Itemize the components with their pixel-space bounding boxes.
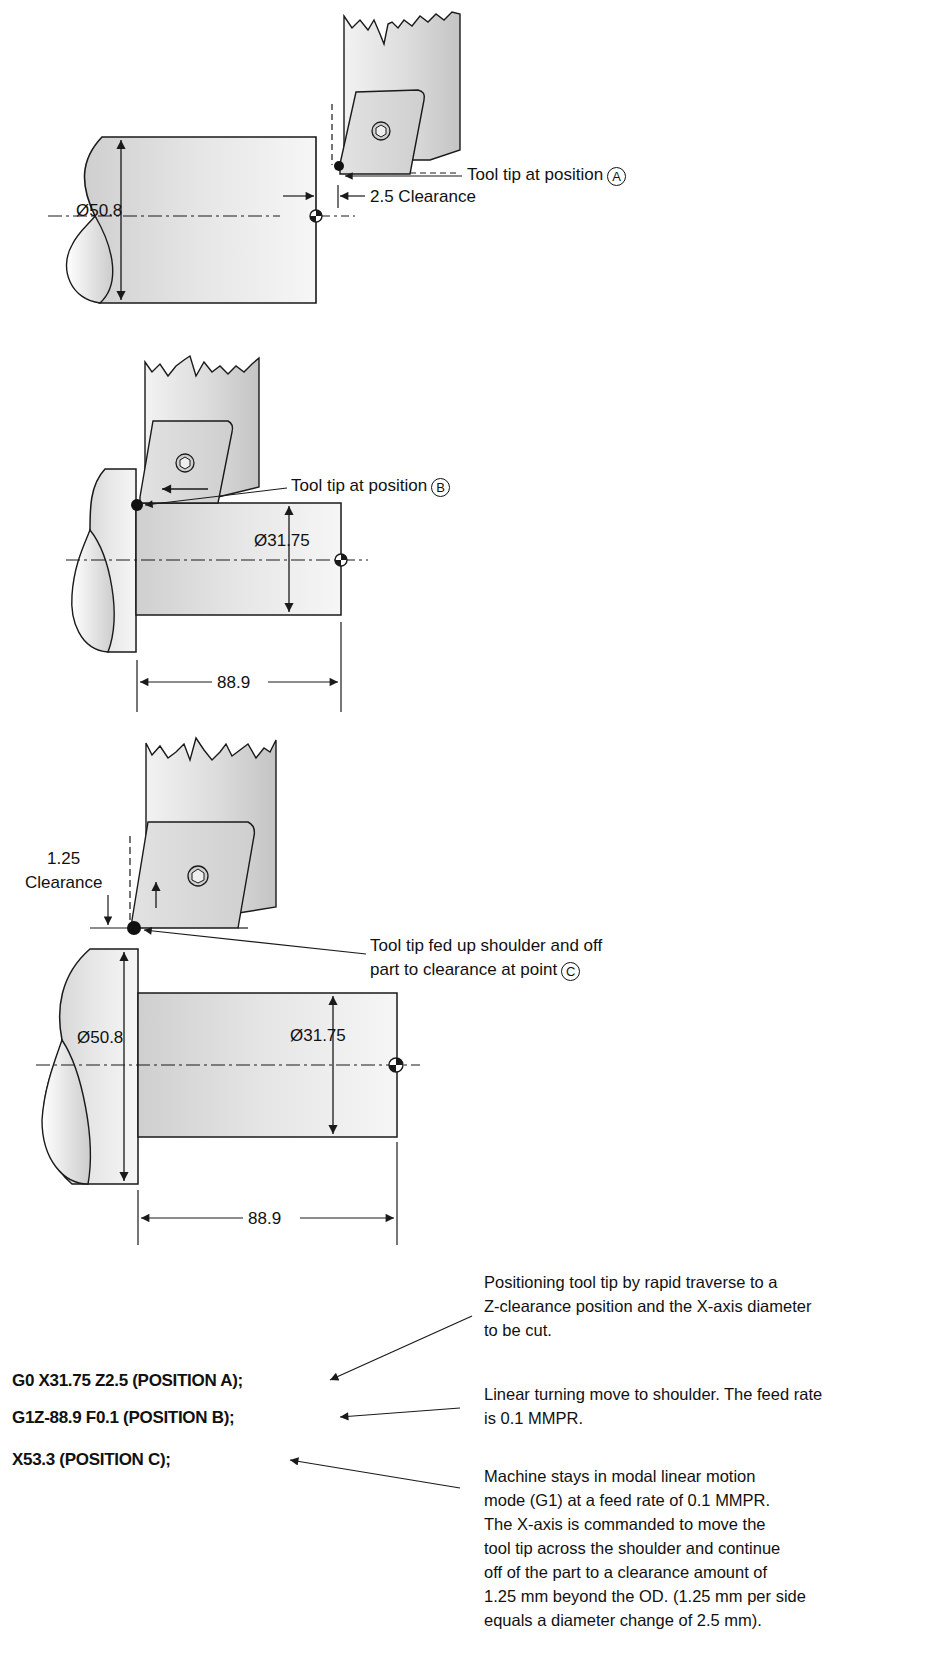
small-diameter-label: Ø31.75 [290,1027,346,1044]
insert-screw-icon [176,454,194,472]
description-line: Machine stays in modal linear motion [484,1464,806,1488]
position-marker-a: A [607,167,626,186]
workpiece [85,137,316,303]
program-callout-arrows [290,1316,472,1488]
figure-3-position-c [36,738,420,1245]
description-line: Linear turning move to shoulder. The fee… [484,1382,822,1406]
length-label: 88.9 [217,674,250,691]
description-position-c: Machine stays in modal linear motion mod… [484,1464,806,1632]
description-line: Positioning tool tip by rapid traverse t… [484,1270,811,1294]
tool-tip-point-c [127,921,141,935]
description-line: mode (G1) at a feed rate of 0.1 MMPR. [484,1488,806,1512]
description-line: equals a diameter change of 2.5 mm). [484,1608,806,1632]
tool-tip-point-a [334,161,344,171]
program-zero-icon [389,1058,403,1072]
clearance-word: Clearance [25,874,103,891]
tool-tip-callout-c: Tool tip fed up shoulder and off part to… [370,934,602,982]
program-line-2: G1Z-88.9 F0.1 (POSITION B); [12,1408,234,1428]
callout-line-1: Tool tip fed up shoulder and off [370,934,602,958]
description-line: off of the part to a clearance amount of [484,1560,806,1584]
description-line: is 0.1 MMPR. [484,1406,822,1430]
program-zero-icon [310,210,322,222]
position-marker-c: C [561,962,580,981]
tool-tip-point-b [131,499,143,511]
diameter-label: Ø50.8 [76,202,122,219]
callout-text: Tool tip at position [467,165,603,184]
program-line-3: X53.3 (POSITION C); [12,1450,171,1470]
program-line-1: G0 X31.75 Z2.5 (POSITION A); [12,1371,243,1391]
program-zero-icon [335,554,347,566]
callout-text: Tool tip at position [291,476,427,495]
large-diameter-label: Ø50.8 [77,1029,123,1046]
callout-line-2: part to clearance at point [370,960,557,979]
length-label: 88.9 [248,1210,281,1227]
tool-tip-callout-a: Tool tip at positionA [467,166,626,186]
description-position-a: Positioning tool tip by rapid traverse t… [484,1270,811,1342]
description-line: tool tip across the shoulder and continu… [484,1536,806,1560]
description-line: The X-axis is commanded to move the [484,1512,806,1536]
diameter-label: Ø31.75 [254,532,310,549]
clearance-value: 1.25 [47,850,80,867]
description-position-b: Linear turning move to shoulder. The fee… [484,1382,822,1430]
position-marker-b: B [431,478,450,497]
description-line: to be cut. [484,1318,811,1342]
turned-diameter [136,503,341,615]
insert-screw-icon [372,122,390,140]
description-line: 1.25 mm beyond the OD. (1.25 mm per side [484,1584,806,1608]
figure-2-position-b [66,356,368,712]
insert-screw-icon [188,866,208,886]
clearance-label: 2.5 Clearance [370,188,476,205]
tool-tip-callout-b: Tool tip at positionB [291,477,450,497]
figure-1-position-a [48,12,462,303]
description-line: Z-clearance position and the X-axis diam… [484,1294,811,1318]
